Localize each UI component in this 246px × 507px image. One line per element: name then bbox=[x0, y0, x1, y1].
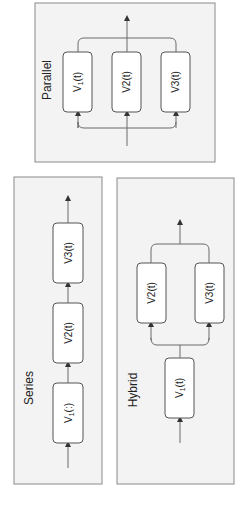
series-block-v1-label: V1(:) bbox=[63, 403, 75, 423]
diagram-canvas: Parallel V1(t) V2(t) V3(t) Series V1(:) … bbox=[0, 0, 246, 507]
series-block-v2-label: V2(t) bbox=[63, 322, 74, 344]
parallel-panel: Parallel V1(t) V2(t) V3(t) bbox=[35, 3, 215, 162]
hybrid-panel-frame bbox=[117, 178, 234, 484]
series-title: Series bbox=[22, 371, 36, 405]
parallel-title: Parallel bbox=[40, 60, 54, 100]
hybrid-block-v3-label: V3(t) bbox=[204, 282, 215, 304]
series-panel: Series V1(:) V2(t) V3(t) bbox=[14, 177, 102, 484]
hybrid-title: Hybrid bbox=[126, 373, 140, 408]
parallel-block-v2-label: V2(t) bbox=[121, 71, 132, 93]
parallel-block-v3-label: V3(t) bbox=[170, 71, 181, 93]
hybrid-panel: Hybrid V1(t) V2(t) V3(t) bbox=[117, 178, 234, 484]
parallel-block-v1-label: V1(t) bbox=[72, 72, 84, 92]
series-block-v3-label: V3(t) bbox=[63, 242, 74, 264]
hybrid-block-v2-label: V2(t) bbox=[146, 282, 157, 304]
hybrid-block-v1-label: V1(t) bbox=[174, 378, 186, 398]
